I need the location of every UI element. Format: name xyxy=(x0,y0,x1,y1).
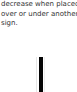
text-line-1: decrease when placed xyxy=(1,0,77,10)
body-text: decrease when placed over or under anoth… xyxy=(1,0,77,29)
text-line-3: sign. xyxy=(1,19,77,29)
text-line-2: over or under another xyxy=(1,10,77,20)
vertical-bar-sign xyxy=(39,57,43,92)
